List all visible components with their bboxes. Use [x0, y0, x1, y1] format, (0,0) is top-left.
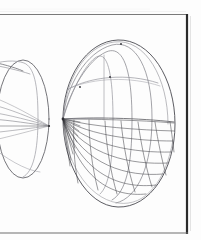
mesh-col-5: [138, 122, 152, 187]
left-converging-ray-2: [0, 112, 49, 126]
mesh-row-0: [63, 119, 174, 123]
right-latitude-upper: [67, 77, 158, 90]
mesh-row-3: [63, 119, 171, 152]
mesh-row-7: [63, 119, 146, 194]
mesh-row-1: [63, 119, 174, 131]
right-latitude-upper-2: [70, 79, 160, 88]
left-ellipsoid-upper-sweep-2: [0, 64, 30, 74]
figure-page: [0, 0, 201, 240]
right-ellipsoid: [62, 40, 175, 207]
left-focal-point: [48, 125, 50, 127]
node-marker: [79, 86, 81, 88]
mesh-col-4: [121, 121, 135, 192]
mesh-col-6: [155, 122, 166, 175]
scan-noise-band: [0, 9, 186, 12]
right-meridian-3: [63, 56, 113, 194]
left-ellipsoid-back-ring: [0, 61, 38, 177]
mesh-col-7: [170, 122, 174, 152]
left-ellipsoid: [0, 60, 50, 178]
node-marker: [62, 118, 65, 121]
left-converging-ray-5: [0, 126, 49, 133]
left-converging-ray-6: [0, 126, 49, 141]
node-marker: [109, 76, 111, 78]
left-converging-ray-7: [0, 96, 49, 126]
node-marker: [120, 43, 122, 45]
geometry-figure-canvas: [0, 0, 201, 240]
mesh-col-3: [105, 121, 117, 194]
